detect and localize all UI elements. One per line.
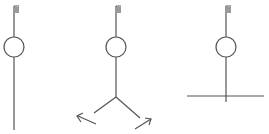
right-arrow-icon [135,118,151,129]
diagram-canvas [0,0,269,134]
figure-forked [77,6,151,129]
head-circle [216,37,236,57]
head-circle [106,37,126,57]
right-branch [116,97,140,118]
figure-crossbar [187,6,264,102]
flag-icon [14,7,19,13]
left-branch [94,97,116,113]
left-arrow-icon [77,113,96,124]
flag-icon [226,7,231,13]
flag-icon [116,7,121,13]
head-circle [4,37,24,57]
figure-straight [4,6,24,130]
